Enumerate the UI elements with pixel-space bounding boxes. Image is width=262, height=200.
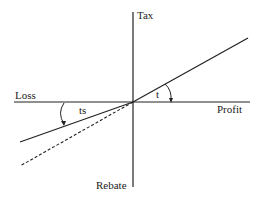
- arrowhead-ts: [61, 121, 66, 126]
- axis-label-tax: Tax: [137, 10, 153, 21]
- angle-arc-ts: [61, 103, 65, 124]
- axis-label-profit: Profit: [217, 104, 242, 115]
- tax-diagram: [0, 0, 262, 200]
- full-rebate-line: [20, 102, 133, 166]
- angle-label-t: t: [156, 89, 159, 100]
- angle-label-ts: ts: [79, 105, 86, 116]
- rebate-line-loss: [20, 102, 133, 142]
- axis-label-loss: Loss: [15, 90, 36, 101]
- axis-label-rebate: Rebate: [96, 180, 127, 191]
- tax-line-profit: [133, 38, 248, 102]
